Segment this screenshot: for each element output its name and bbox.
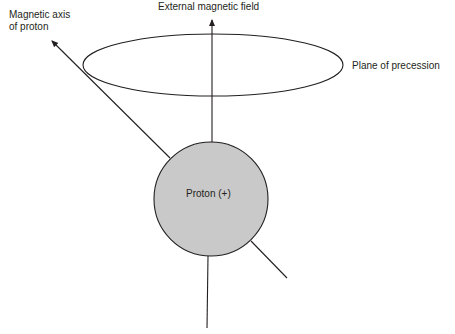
- external-field-label: External magnetic field: [158, 1, 259, 13]
- external-field-line-bottom: [207, 256, 208, 328]
- magnetic-axis-arrow: [52, 41, 170, 158]
- proton-label: Proton (+): [186, 188, 231, 200]
- magnetic-axis-label-line1: Magnetic axis: [9, 9, 70, 21]
- precession-plane-label: Plane of precession: [352, 60, 440, 72]
- magnetic-axis-label: Magnetic axis of proton: [9, 9, 70, 33]
- diagram-canvas: [0, 0, 455, 334]
- magnetic-axis-label-line2: of proton: [9, 21, 70, 33]
- magnetic-axis-line-bottom: [251, 241, 287, 278]
- precession-plane-ellipse: [83, 34, 343, 96]
